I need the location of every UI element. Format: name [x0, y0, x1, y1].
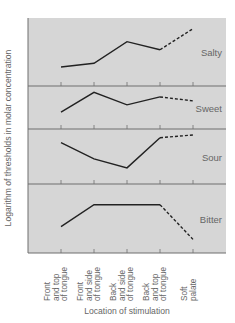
panel-label-sour: Sour — [202, 152, 222, 163]
x-tick-label: Front and top of tongue — [44, 267, 70, 301]
panel-label-sweet: Sweet — [196, 103, 223, 114]
x-tick-label: Back and top of tongue — [143, 267, 169, 301]
plot-background — [28, 18, 226, 253]
x-tick-label: Soft palate — [181, 279, 198, 301]
x-tick-label: Back and side of tongue — [110, 267, 136, 301]
panel-label-salty: Salty — [201, 47, 222, 58]
x-axis-label: Location of stimulation — [28, 306, 226, 316]
y-axis-label: Logarithm of thresholds in molar concent… — [3, 18, 13, 258]
x-tick-label: Front and side of tongue — [77, 267, 103, 301]
panel-label-bitter: Bitter — [200, 214, 222, 225]
